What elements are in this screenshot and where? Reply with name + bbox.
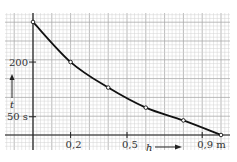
x-tick-label: 0,5 <box>122 139 138 150</box>
x-axis-title: h <box>146 142 182 153</box>
x-axis-label: h <box>146 142 152 153</box>
data-point-marker <box>106 86 110 90</box>
data-point-marker <box>219 133 223 137</box>
arrowhead-right-icon <box>175 145 182 150</box>
grid-paper <box>5 13 230 150</box>
y-tick-label: 200 <box>9 57 28 68</box>
data-point-marker <box>144 106 148 110</box>
data-point-marker <box>182 119 186 123</box>
y-tick-label: 50 s <box>7 111 28 122</box>
x-tick-label: 0,2 <box>66 139 82 150</box>
line-chart: 0,20,50,9 m 20050 s t h <box>0 0 237 162</box>
x-tick-label: 0,9 m <box>197 139 226 150</box>
data-point-marker <box>69 60 73 64</box>
data-point-marker <box>31 20 35 24</box>
